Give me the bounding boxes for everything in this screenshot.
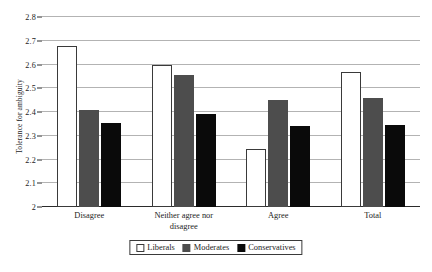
bar-conservatives (196, 114, 216, 207)
y-tick-label: 2.4 (2, 108, 36, 117)
legend-label: Liberals (147, 243, 174, 252)
y-tick-label: 2.5 (2, 84, 36, 93)
bar-moderates (363, 98, 383, 207)
y-tick-label: 2.6 (2, 60, 36, 69)
bar-conservatives (290, 126, 310, 207)
x-axis-label: Agree (231, 210, 326, 221)
x-axis-label-line: Neither agree nor (137, 210, 232, 221)
bar-conservatives (101, 123, 121, 207)
bar-moderates (79, 110, 99, 207)
bar-liberals (246, 149, 266, 207)
y-tick-label: 2.8 (2, 13, 36, 22)
x-axis-label: Disagree (42, 210, 137, 221)
chart-legend: LiberalsModeratesConservatives (129, 240, 302, 255)
x-axis-labels: DisagreeNeither agree nordisagreeAgreeTo… (42, 210, 420, 244)
legend-swatch-icon (136, 244, 144, 252)
bar-liberals (152, 65, 172, 208)
y-tick-label: 2 (2, 203, 36, 212)
bar-liberals (341, 72, 361, 207)
y-tick-label: 2.3 (2, 131, 36, 140)
bar-conservatives (385, 125, 405, 207)
x-axis-label: Total (326, 210, 421, 221)
bar-chart: Tolerance for ambiguity 2.82.72.62.52.42… (0, 0, 432, 272)
bar-group (42, 17, 137, 207)
bar-moderates (268, 100, 288, 207)
bars-layer (42, 17, 420, 207)
bar-moderates (174, 75, 194, 207)
y-tick-label: 2.1 (2, 179, 36, 188)
y-axis-ticks: 2.82.72.62.52.42.32.22.12 (0, 17, 40, 207)
x-axis-label-line: Disagree (42, 210, 137, 221)
legend-item-conservatives: Conservatives (237, 243, 295, 252)
legend-swatch-icon (237, 244, 245, 252)
y-tick-label: 2.2 (2, 155, 36, 164)
y-tick-label: 2.7 (2, 36, 36, 45)
x-axis-label: Neither agree nordisagree (137, 210, 232, 232)
x-axis-label-line: Total (326, 210, 421, 221)
x-axis-label-line: disagree (137, 221, 232, 232)
bar-liberals (57, 46, 77, 208)
x-axis-label-line: Agree (231, 210, 326, 221)
bar-group (137, 17, 232, 207)
bar-group (326, 17, 421, 207)
bar-group (231, 17, 326, 207)
legend-item-liberals: Liberals (136, 243, 174, 252)
legend-label: Conservatives (248, 243, 295, 252)
legend-item-moderates: Moderates (183, 243, 229, 252)
legend-swatch-icon (183, 244, 191, 252)
legend-label: Moderates (194, 243, 229, 252)
